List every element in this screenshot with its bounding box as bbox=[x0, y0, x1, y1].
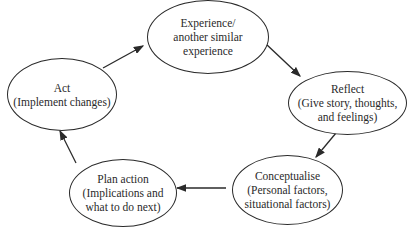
node-plan-line-1: Plan action bbox=[97, 172, 148, 186]
node-conceptualise-line-3: situational factors) bbox=[245, 197, 331, 211]
node-act-line-1: Act bbox=[54, 81, 71, 95]
node-plan-line-2: (Implications and bbox=[83, 186, 164, 200]
arrow-act-to-experience bbox=[103, 46, 143, 68]
node-experience-line-3: experience bbox=[183, 44, 233, 58]
node-reflect-line-1: Reflect bbox=[331, 82, 364, 96]
node-conceptualise-line-2: (Personal factors, bbox=[247, 183, 327, 197]
node-conceptualise: Conceptualise (Personal factors, situati… bbox=[232, 155, 343, 225]
arrow-plan-to-act bbox=[60, 131, 76, 163]
reflective-cycle-diagram: Experience/ another similar experience R… bbox=[0, 0, 407, 228]
node-reflect-line-3: and feelings) bbox=[318, 110, 378, 124]
arrow-experience-to-reflect bbox=[266, 44, 300, 76]
node-reflect: Reflect (Give story, thoughts, and feeli… bbox=[288, 71, 407, 135]
node-reflect-line-2: (Give story, thoughts, bbox=[298, 96, 398, 110]
node-act: Act (Implement changes) bbox=[7, 58, 117, 131]
node-experience-line-2: another similar bbox=[173, 30, 242, 44]
node-conceptualise-line-1: Conceptualise bbox=[255, 169, 320, 183]
node-plan-line-3: what to do next) bbox=[85, 200, 160, 214]
node-plan: Plan action (Implications and what to do… bbox=[69, 159, 177, 227]
node-experience-line-1: Experience/ bbox=[181, 16, 236, 30]
node-experience: Experience/ another similar experience bbox=[147, 0, 269, 74]
node-act-line-2: (Implement changes) bbox=[13, 95, 110, 109]
arrow-reflect-to-conceptualise bbox=[316, 133, 336, 157]
